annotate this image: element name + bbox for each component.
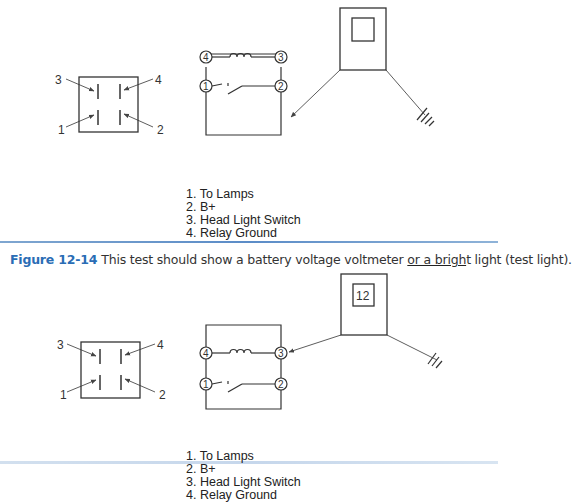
top-connector-label-2: 2 <box>157 123 164 137</box>
bottom-relay-pin-2: 2 <box>278 379 284 390</box>
figure-label: Figure 12-14 <box>10 252 97 267</box>
caption-divider <box>0 241 498 243</box>
bottom-voltmeter <box>289 274 437 360</box>
bottom-connector-label-1: 1 <box>60 388 67 402</box>
caption-text: This test should show a battery voltage … <box>101 252 407 267</box>
caption-underlined-text: or a brigh <box>407 252 466 267</box>
top-connector-label-4: 4 <box>155 73 162 87</box>
top-connector-label-1: 1 <box>58 123 65 137</box>
bottom-connector-label-3: 3 <box>57 338 64 352</box>
top-voltmeter <box>291 8 425 117</box>
top-relay-pin-2: 2 <box>278 81 284 92</box>
bottom-connector-label-2: 2 <box>159 388 166 402</box>
bottom-relay-schematic <box>200 325 287 409</box>
bottom-connector-diagram <box>67 342 155 398</box>
top-connector-diagram <box>66 77 153 132</box>
top-legend: 1. To Lamps 2. B+ 3. Head Light Switch 4… <box>186 188 301 240</box>
top-relay-pin-4: 4 <box>203 52 209 63</box>
bottom-relay-pin-4: 4 <box>203 348 209 359</box>
top-ground-symbol-icon <box>417 108 434 126</box>
bottom-relay-pin-3: 3 <box>278 348 284 359</box>
top-relay-schematic <box>200 51 287 135</box>
bottom-meter-display: 12 <box>356 289 370 303</box>
legend-item: 4. Relay Ground <box>186 489 301 502</box>
bottom-relay-pin-1: 1 <box>203 379 209 390</box>
bottom-legend: 1. To Lamps 2. B+ 3. Head Light Switch 4… <box>186 450 301 502</box>
top-connector-label-3: 3 <box>55 73 62 87</box>
bottom-connector-label-4: 4 <box>157 338 164 352</box>
bottom-ground-symbol-icon <box>428 353 442 368</box>
top-relay-pin-1: 1 <box>203 81 209 92</box>
legend-item: 4. Relay Ground <box>186 227 301 240</box>
top-relay-pin-3: 3 <box>278 52 284 63</box>
caption-text-end: t light (test light). <box>466 252 572 267</box>
figure-caption: Figure 12-14This test should show a batt… <box>10 252 572 267</box>
